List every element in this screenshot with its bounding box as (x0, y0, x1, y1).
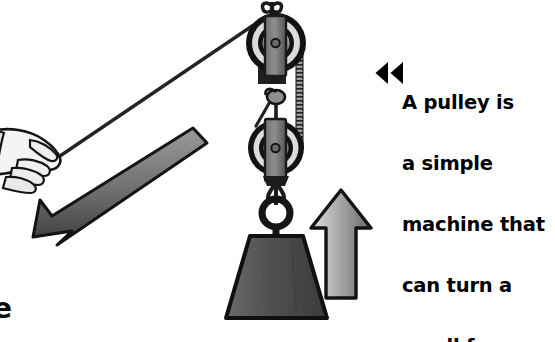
clipped-edge-glyph: e (0, 292, 12, 325)
lift-up-arrow (311, 190, 371, 298)
pull-down-arrow (33, 128, 207, 245)
callout-line: can turn a (402, 271, 554, 302)
callout-line: machine that (402, 210, 554, 241)
illustration-canvas: A pulley is a simple machine that can tu… (0, 0, 555, 342)
callout-line: small force (402, 332, 554, 342)
lower-pulley (248, 119, 304, 186)
weight (226, 236, 327, 318)
hand (0, 129, 60, 193)
callout-text: A pulley is a simple machine that can tu… (402, 57, 554, 342)
callout-line: A pulley is (402, 88, 554, 119)
callout-line: a simple (402, 149, 554, 180)
rewind-double-left-icon (373, 60, 405, 86)
